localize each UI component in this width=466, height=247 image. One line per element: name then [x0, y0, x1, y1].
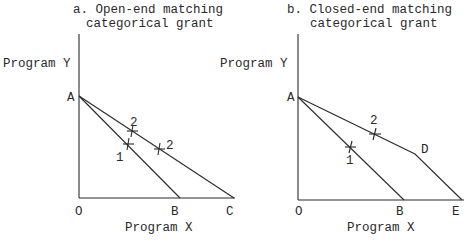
- grant-diagrams: a. Open-end matching categorical grant P…: [0, 0, 466, 247]
- panel-a-budget-line-AB: [79, 96, 180, 198]
- panel-a-title-line2: categorical grant: [86, 17, 214, 31]
- panel-a-equilibrium-marker-1: [123, 138, 134, 150]
- panel-a-point-O: O: [75, 205, 83, 219]
- panel-a-marker-label-2-right: 2: [166, 139, 174, 153]
- panel-b-marker-label-1: 1: [346, 154, 354, 168]
- panel-a-title-line1: a. Open-end matching: [73, 3, 223, 17]
- panel-a-point-A: A: [67, 91, 75, 105]
- panel-a-y-label: Program Y: [3, 57, 71, 71]
- panel-a-marker-label-1: 1: [116, 151, 124, 165]
- panel-b-point-A: A: [287, 91, 295, 105]
- panel-a-budget-line-AC: [79, 96, 234, 198]
- panel-a-point-C: C: [226, 205, 234, 219]
- panel-b-equilibrium-marker-2: [369, 128, 381, 140]
- panel-b-budget-line-AB: [298, 97, 404, 200]
- panel-b-point-D: D: [421, 143, 429, 157]
- panel-b-y-label: Program Y: [220, 57, 288, 71]
- panel-b: b. Closed-end matching categorical grant…: [220, 3, 464, 235]
- panel-a-equilibrium-marker-2-right: [154, 143, 165, 155]
- panel-b-budget-line-ADE: [298, 97, 462, 200]
- panel-a-x-label: Program X: [125, 221, 193, 235]
- panel-a-point-B: B: [171, 205, 179, 219]
- panel-b-point-B: B: [396, 205, 404, 219]
- panel-b-point-O: O: [295, 205, 303, 219]
- panel-b-title-line2: categorical grant: [310, 17, 438, 31]
- panel-b-x-label: Program X: [347, 221, 415, 235]
- panel-b-marker-label-2: 2: [370, 114, 378, 128]
- panel-a-marker-label-2-upper: 2: [130, 116, 138, 130]
- panel-b-point-E: E: [452, 205, 460, 219]
- panel-a: a. Open-end matching categorical grant P…: [3, 3, 235, 235]
- panel-b-title-line1: b. Closed-end matching: [287, 3, 452, 17]
